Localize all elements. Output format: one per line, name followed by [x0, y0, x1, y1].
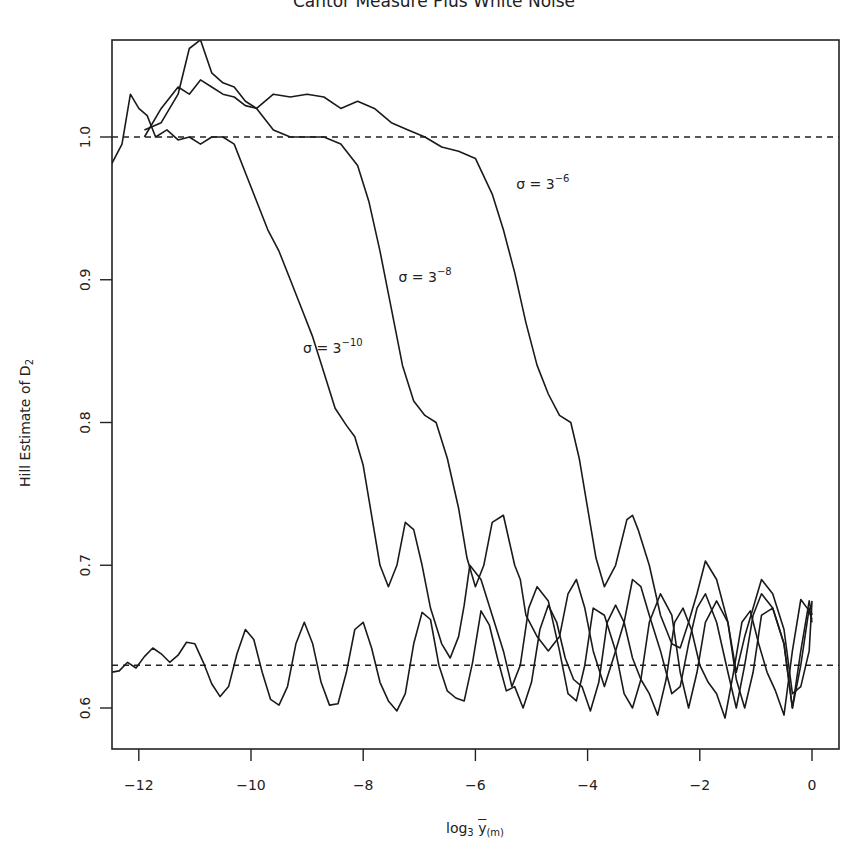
y-axis: 0.60.70.80.91.0 — [77, 126, 112, 719]
y-tick-label: 0.6 — [77, 697, 93, 719]
series-line — [111, 94, 812, 708]
y-tick-label: 0.8 — [77, 411, 93, 433]
plot-area: 0.60.70.80.91.0 −12−10−8−6−4−20 — [0, 0, 868, 860]
x-axis-label: log3 y(m) — [446, 820, 504, 838]
x-tick-label: −8 — [353, 777, 374, 793]
series-line — [144, 40, 812, 694]
x-tick-label: −10 — [236, 777, 266, 793]
y-tick-label: 0.9 — [77, 269, 93, 291]
x-tick-label: −2 — [689, 777, 710, 793]
y-tick-label: 0.7 — [77, 554, 93, 576]
x-tick-label: −6 — [465, 777, 486, 793]
y-tick-label: 1.0 — [77, 126, 93, 148]
curve-label: σ = 3−6 — [516, 173, 569, 192]
data-series — [111, 40, 812, 718]
x-axis: −12−10−8−6−4−20 — [124, 749, 816, 793]
series-line — [144, 80, 812, 708]
y-axis-label: Hill Estimate of D2 — [17, 359, 35, 487]
curve-label: σ = 3−10 — [303, 337, 363, 356]
curve-label: σ = 3−8 — [398, 266, 451, 285]
x-tick-label: −12 — [124, 777, 154, 793]
x-tick-label: 0 — [808, 777, 817, 793]
x-tick-label: −4 — [577, 777, 598, 793]
